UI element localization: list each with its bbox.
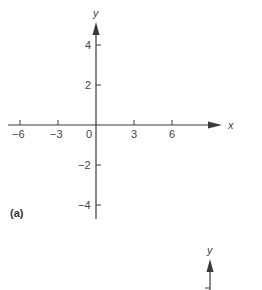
x-tick-label: 6 [169, 128, 175, 140]
y-tick-label: 4 [85, 39, 91, 51]
y-tick-label: 2 [85, 79, 91, 91]
coordinate-plane-diagram: x y −6 −3 3 6 0 4 2 −2 −4 (a) [0, 0, 262, 290]
y-axis-arrow-icon-b [207, 259, 214, 272]
figure-b: y [205, 244, 214, 290]
figure-a: x y −6 −3 3 6 0 4 2 −2 −4 (a) [8, 7, 234, 219]
panel-label-a: (a) [10, 207, 24, 219]
origin-label: 0 [86, 128, 92, 140]
y-tick-label: −2 [78, 159, 91, 171]
x-ticks: −6 −3 3 6 0 [12, 120, 175, 140]
y-axis-arrow-icon [93, 22, 100, 35]
y-tick-label: −4 [78, 199, 91, 211]
x-axis-arrow-icon [208, 122, 222, 129]
x-tick-label: −3 [50, 128, 63, 140]
y-axis-label: y [92, 7, 100, 19]
x-axis-label: x [227, 119, 234, 131]
x-tick-label: −6 [12, 128, 25, 140]
y-axis-label-b: y [206, 244, 214, 256]
x-tick-label: 3 [131, 128, 137, 140]
